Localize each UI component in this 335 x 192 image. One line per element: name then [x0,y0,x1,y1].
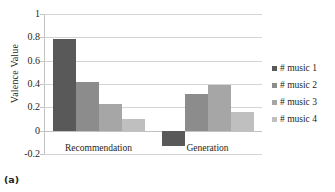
gridline [44,14,262,15]
y-axis-tick-label: 0.6 [28,56,41,66]
y-axis-title: Valence Value [9,29,20,119]
bar [185,94,208,131]
y-axis-tick-mark [40,131,44,132]
gridline [44,154,262,155]
y-axis-tick-mark [40,37,44,38]
bar [76,82,99,130]
chart-legend: # music 1# music 2# music 3# music 4 [272,60,334,128]
y-axis-tick-label: -0.2 [24,149,40,159]
legend-label: # music 1 [280,64,317,74]
y-axis-tick-mark [40,84,44,85]
cropped-title-remnant [70,0,240,3]
legend-swatch-icon [272,66,277,71]
legend-item: # music 4 [272,111,334,128]
bar [99,104,122,130]
bar [208,85,231,131]
bar [231,112,254,131]
y-axis-tick-label: 0.4 [28,79,41,89]
legend-label: # music 4 [280,115,317,125]
zero-line [44,131,262,132]
legend-swatch-icon [272,100,277,105]
legend-swatch-icon [272,83,277,88]
legend-label: # music 3 [280,98,317,108]
legend-item: # music 3 [272,94,334,111]
legend-label: # music 2 [280,81,317,91]
figure: Valence Value 10.80.60.40.20-0.2 # music… [0,0,335,192]
bar [162,131,185,147]
figure-caption: (a) [4,174,19,185]
plot-area: 10.80.60.40.20-0.2 [44,14,262,154]
y-axis-tick-mark [40,154,44,155]
y-axis-tick-label: 0.2 [28,102,41,112]
y-axis-tick-label: 0.8 [28,32,41,42]
legend-swatch-icon [272,117,277,122]
x-axis-category-label: Recommendation [65,143,132,153]
gridline [44,37,262,38]
legend-item: # music 1 [272,60,334,77]
y-axis-tick-mark [40,61,44,62]
gridline [44,61,262,62]
bar [122,119,145,131]
y-axis-tick-mark [40,14,44,15]
y-axis-tick-mark [40,107,44,108]
x-axis-category-label: Generation [186,143,228,153]
bar [53,39,76,131]
legend-item: # music 2 [272,77,334,94]
